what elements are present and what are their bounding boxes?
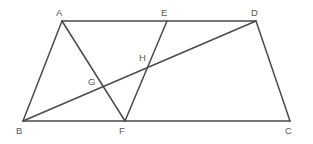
segment-EF (125, 21, 167, 121)
point-label-D: D (251, 8, 258, 18)
point-label-A: A (56, 8, 62, 18)
point-label-F: F (119, 126, 125, 136)
point-label-H: H (139, 53, 146, 63)
point-label-C: C (285, 126, 292, 136)
geometry-figure: A B C D E F G H (0, 0, 313, 144)
geometry-canvas (0, 0, 313, 144)
point-label-G: G (88, 77, 95, 87)
segment-DC (256, 21, 290, 121)
point-label-E: E (161, 8, 167, 18)
point-label-B: B (16, 126, 22, 136)
segment-AF (62, 21, 125, 121)
segment-BD (23, 21, 256, 121)
